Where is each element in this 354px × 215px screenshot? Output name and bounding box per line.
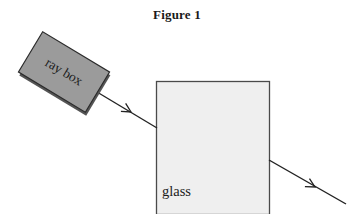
diagram-canvas: glass ray box <box>0 0 354 214</box>
glass-block: glass <box>157 82 270 215</box>
emergent-ray <box>269 160 346 204</box>
glass-label: glass <box>162 183 191 199</box>
ray-box: ray box <box>17 32 111 116</box>
incident-ray <box>97 92 157 128</box>
incident-ray-group <box>97 92 157 128</box>
emergent-ray-group <box>269 160 346 204</box>
figure-diagram: Figure 1 glass ray box <box>0 0 354 214</box>
